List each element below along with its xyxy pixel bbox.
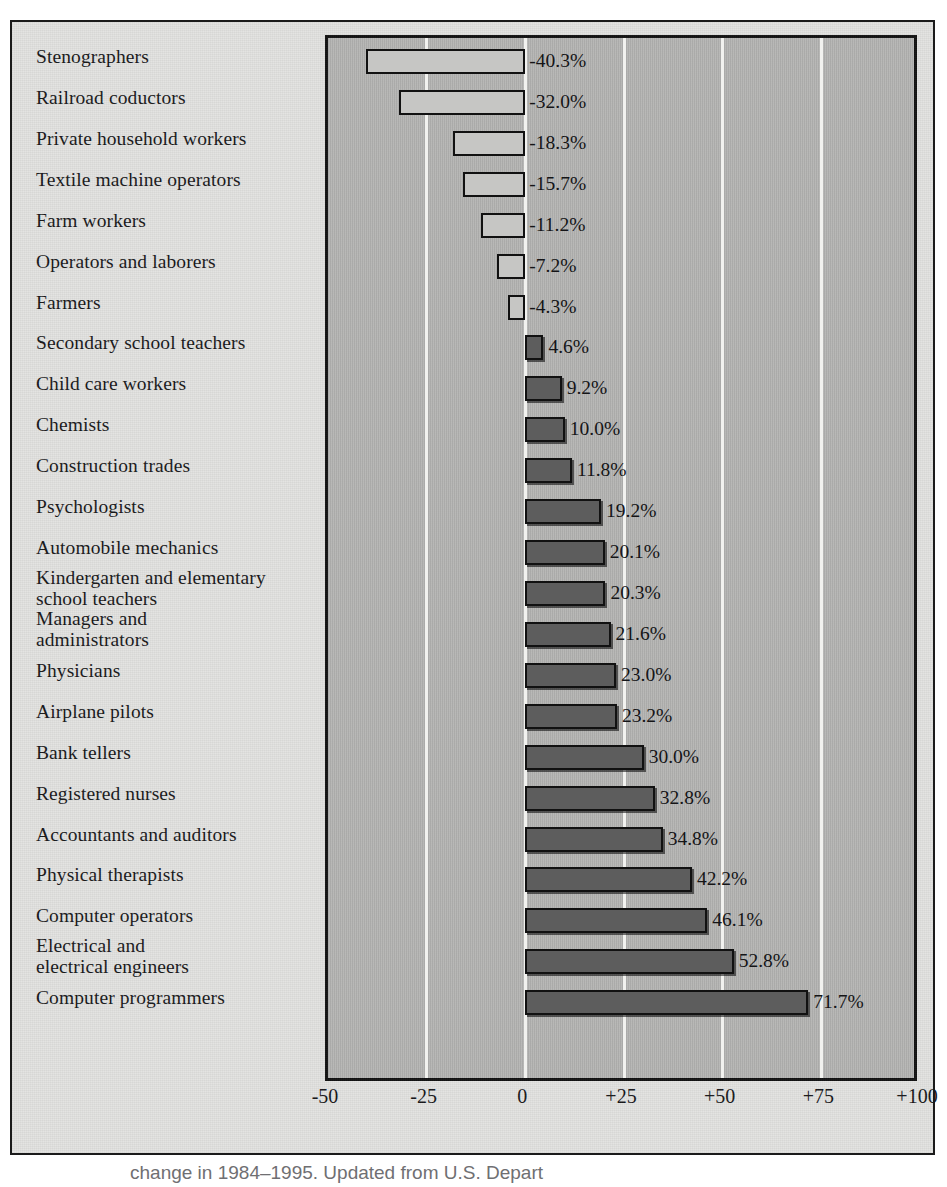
category-label: Kindergarten and elementary school teach…	[36, 567, 328, 609]
bar	[453, 131, 525, 156]
figure-frame: StenographersRailroad coductorsPrivate h…	[10, 20, 935, 1155]
bar-value-label: 19.2%	[606, 501, 656, 521]
x-tick-label: +25	[605, 1084, 636, 1108]
category-label: Managers and administrators	[36, 608, 328, 650]
x-tick-label: 0	[517, 1084, 527, 1108]
bar-value-label: 34.8%	[668, 829, 718, 849]
category-label: Registered nurses	[36, 783, 328, 804]
bar	[525, 540, 604, 565]
bar	[525, 786, 654, 811]
bar	[399, 90, 525, 115]
category-label: Bank tellers	[36, 742, 328, 763]
category-label: Farmers	[36, 292, 328, 313]
bar-value-label: 42.2%	[697, 869, 747, 889]
bar-value-label: 30.0%	[649, 747, 699, 767]
bar-value-label: -4.3%	[529, 297, 576, 317]
plot-area: -40.3%-32.0%-18.3%-15.7%-11.2%-7.2%-4.3%…	[325, 35, 917, 1081]
category-label: Textile machine operators	[36, 169, 328, 190]
bar	[525, 745, 643, 770]
category-label-column: StenographersRailroad coductorsPrivate h…	[24, 32, 324, 1072]
bar-value-label: -40.3%	[529, 51, 586, 71]
category-label: Stenographers	[36, 46, 328, 67]
bar-value-label: 23.2%	[622, 706, 672, 726]
category-label: Child care workers	[36, 373, 328, 394]
bar	[525, 499, 601, 524]
bar-value-label: 11.8%	[577, 460, 627, 480]
x-tick-label: -50	[312, 1084, 339, 1108]
category-label: Construction trades	[36, 455, 328, 476]
bar-value-label: 32.8%	[660, 788, 710, 808]
category-label: Accountants and auditors	[36, 824, 328, 845]
bar	[497, 254, 525, 279]
category-label: Physical therapists	[36, 864, 328, 885]
x-tick-label: -25	[410, 1084, 437, 1108]
bar	[508, 295, 525, 320]
bar	[525, 867, 692, 892]
bar	[525, 458, 572, 483]
bar-value-label: -11.2%	[529, 215, 585, 235]
bar	[463, 172, 525, 197]
category-label: Private household workers	[36, 128, 328, 149]
bar-value-label: 71.7%	[813, 992, 863, 1012]
bar-value-label: -15.7%	[529, 174, 586, 194]
x-axis: -50-250+25+50+75+100	[325, 1084, 917, 1114]
category-label: Automobile mechanics	[36, 537, 328, 558]
bar	[525, 949, 733, 974]
bar-value-label: 46.1%	[712, 910, 762, 930]
category-label: Computer operators	[36, 905, 328, 926]
figure-caption: change in 1984–1995. Updated from U.S. D…	[10, 1164, 935, 1187]
bar	[525, 908, 707, 933]
bar	[525, 376, 561, 401]
bar	[525, 581, 605, 606]
bar-value-label: 52.8%	[739, 951, 789, 971]
x-tick-label: +50	[704, 1084, 735, 1108]
category-label: Computer programmers	[36, 987, 328, 1008]
bar-value-label: 20.1%	[610, 542, 660, 562]
bars: -40.3%-32.0%-18.3%-15.7%-11.2%-7.2%-4.3%…	[328, 38, 914, 1078]
category-label: Chemists	[36, 414, 328, 435]
bar	[366, 49, 525, 74]
x-tick-label: +100	[896, 1084, 937, 1108]
bar-value-label: -7.2%	[529, 256, 576, 276]
bar-value-label: -18.3%	[529, 133, 586, 153]
bar	[525, 417, 564, 442]
category-label: Physicians	[36, 660, 328, 681]
bar	[525, 335, 543, 360]
category-label: Farm workers	[36, 210, 328, 231]
category-label: Psychologists	[36, 496, 328, 517]
bar-value-label: 21.6%	[616, 624, 666, 644]
bar	[525, 663, 616, 688]
bar-value-label: -32.0%	[529, 92, 586, 112]
bar	[525, 622, 610, 647]
category-label: Airplane pilots	[36, 701, 328, 722]
bar	[525, 827, 662, 852]
bar-value-label: 10.0%	[570, 419, 620, 439]
caption-text: change in 1984–1995. Updated from U.S. D…	[130, 1164, 543, 1184]
category-label: Secondary school teachers	[36, 332, 328, 353]
bar	[525, 990, 808, 1015]
bar	[481, 213, 525, 238]
bar-value-label: 20.3%	[610, 583, 660, 603]
category-label: Railroad coductors	[36, 87, 328, 108]
x-tick-label: +75	[803, 1084, 834, 1108]
category-label: Operators and laborers	[36, 251, 328, 272]
bar-value-label: 9.2%	[567, 378, 608, 398]
category-label: Electrical and electrical engineers	[36, 935, 328, 977]
bar-value-label: 4.6%	[548, 337, 589, 357]
bar	[525, 704, 617, 729]
bar-value-label: 23.0%	[621, 665, 671, 685]
